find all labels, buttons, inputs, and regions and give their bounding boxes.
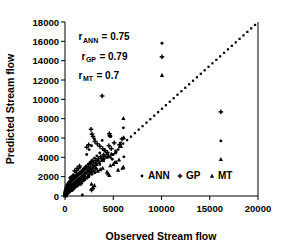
reference-line-dot [184,87,186,89]
x-tick-label: 10000 [148,203,174,214]
reference-line-dot [176,94,178,96]
reference-line-dot [227,48,229,50]
data-point-ann [122,126,125,129]
reference-line-dot [157,111,159,113]
x-axis-title: Observed Stream flow [106,230,218,242]
reference-line-dot [188,83,190,85]
annotation-subscript: GP [86,56,96,63]
reference-line-dot [122,143,124,145]
y-axis-title: Predicted Stream flow [4,53,16,164]
reference-line-dot [254,24,256,26]
reference-line-dot [250,27,252,29]
data-point-ann [93,171,96,174]
reference-line-dot [204,69,206,71]
reference-line-dot [130,136,132,138]
annotation-value: = 0.75 [99,31,130,42]
scatter-chart-figure: 0200040006000800010000120001400016000180… [0,0,284,250]
reference-line-dot [173,97,175,99]
reference-line-dot [192,80,194,82]
y-tick-label: 6000 [38,133,59,144]
reference-line-dot [134,132,136,134]
reference-line-dot [238,38,240,40]
x-tick-label: 15000 [197,203,223,214]
reference-line-dot [207,66,209,68]
x-tick-label: 20000 [245,203,271,214]
data-point-ann [98,152,101,155]
annotation-symbol: r [81,51,85,62]
y-tick-label: 8000 [38,113,59,124]
reference-line-dot [242,34,244,36]
legend-label-mt: MT [218,170,232,181]
stream-flow-scatter-plot: 0200040006000800010000120001400016000180… [0,0,284,250]
reference-line-dot [219,55,221,57]
y-tick-label: 18000 [33,17,59,28]
reference-line-dot [153,115,155,117]
y-tick-label: 4000 [38,152,59,163]
reference-line-dot [145,122,147,124]
annotation-subscript: ANN [83,37,98,44]
y-tick-label: 0 [54,191,59,202]
data-point-ann [111,158,114,161]
legend-marker-ann [141,175,144,178]
annotation-symbol: r [79,31,83,42]
reference-line-dot [180,90,182,92]
reference-line-dot [169,101,171,103]
y-tick-label: 10000 [33,94,59,105]
x-tick-label: 5000 [103,203,124,214]
x-tick-label: 0 [62,203,67,214]
reference-line-dot [223,52,225,54]
legend-label-ann: ANN [148,170,170,181]
data-point-ann [122,155,125,158]
y-tick-label: 2000 [38,171,59,182]
reference-line-dot [161,108,163,110]
reference-line-dot [235,41,237,43]
reference-line-dot [246,31,248,33]
reference-line-dot [141,125,143,127]
data-point-ann [219,139,222,142]
annotation-value: = 0.7 [94,70,120,81]
y-tick-label: 12000 [33,75,59,86]
legend-label-gp: GP [186,170,201,181]
data-point-ann [161,42,164,45]
y-tick-label: 16000 [33,36,59,47]
data-point-ann [81,194,84,197]
chart-legend: ANNGPMT [141,170,233,181]
data-point-ann [88,148,91,151]
reference-line-dot [126,139,128,141]
reference-line-dot [211,62,213,64]
reference-line-dot [196,76,198,78]
reference-line-dot [200,73,202,75]
data-point-ann [117,148,120,151]
reference-line-dot [231,45,233,47]
reference-line-dot [165,104,167,106]
y-tick-label: 14000 [33,55,59,66]
annotation-symbol: r [79,70,83,81]
data-point-ann [85,153,88,156]
annotation-subscript: MT [83,75,94,82]
reference-line-dot [215,59,217,61]
reference-line-dot [149,118,151,120]
annotation-value: = 0.79 [97,51,128,62]
data-point-ann [101,139,104,142]
reference-line-dot [138,129,140,131]
